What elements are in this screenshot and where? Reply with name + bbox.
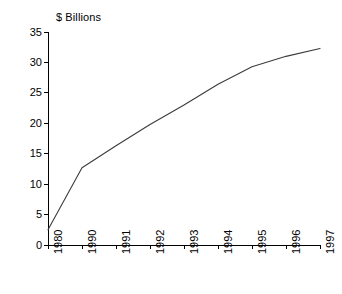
- y-axis-tick-label: 35: [18, 27, 42, 38]
- y-axis-tick-label: 0: [18, 240, 42, 251]
- y-axis-tick-label: 25: [18, 87, 42, 98]
- y-axis-tick-label: 5: [18, 209, 42, 220]
- data-line: [48, 48, 320, 229]
- x-axis-tick-label: 1993: [189, 230, 200, 254]
- x-axis-tick-label: 1990: [87, 230, 98, 254]
- y-axis-tick-label: 30: [18, 57, 42, 68]
- chart-container: $ Billions 05101520253035 19801990199119…: [0, 0, 342, 294]
- x-axis-tick-label: 1992: [155, 230, 166, 254]
- chart-series-line: [48, 48, 320, 229]
- x-axis-tick-label: 1991: [121, 230, 132, 254]
- y-axis-tick-label: 20: [18, 118, 42, 129]
- x-axis-tick-label: 1996: [291, 230, 302, 254]
- x-axis-tick-label: 1997: [325, 230, 336, 254]
- x-axis-tick-label: 1980: [53, 230, 64, 254]
- chart-axes: [44, 32, 320, 249]
- x-axis-tick-label: 1994: [223, 230, 234, 254]
- y-axis-tick-label: 15: [18, 148, 42, 159]
- x-axis-tick-label: 1995: [257, 230, 268, 254]
- y-axis-tick-label: 10: [18, 179, 42, 190]
